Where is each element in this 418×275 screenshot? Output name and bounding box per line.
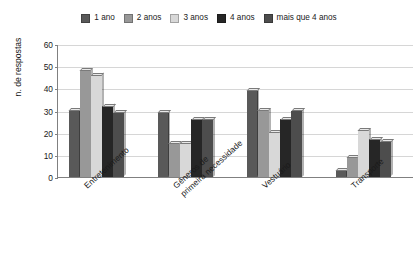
bar[interactable] [358, 130, 369, 177]
bar-slot [247, 45, 258, 177]
legend-item-label: 2 anos [137, 14, 162, 22]
legend-item[interactable]: mais que 4 anos [264, 14, 337, 23]
bar-slot [202, 45, 213, 177]
legend-item[interactable]: 1 ano [81, 14, 115, 23]
bar[interactable] [347, 157, 358, 177]
bar-slot [69, 45, 80, 177]
bar[interactable] [336, 170, 347, 177]
legend-item-label: 4 anos [230, 14, 255, 22]
legend-swatch-icon [81, 14, 90, 23]
bar[interactable] [91, 75, 102, 177]
bar-slot [347, 45, 358, 177]
y-axis-tick-label: 30 [27, 107, 53, 115]
y-axis-tick-labels: 0102030405060 [22, 45, 53, 178]
legend-item-label: 1 ano [94, 14, 115, 22]
bar-slot [258, 45, 269, 177]
y-axis-tick [55, 134, 58, 135]
y-axis-tick [55, 178, 58, 179]
bar-top-face [203, 117, 217, 120]
bar[interactable] [247, 91, 258, 177]
chart-legend: 1 ano2 anos3 anos4 anosmais que 4 anos [0, 14, 418, 23]
bar[interactable] [113, 113, 124, 177]
y-axis-tick [55, 112, 58, 113]
bar[interactable] [69, 111, 80, 178]
y-axis-tick [55, 45, 58, 46]
bar-slot [369, 45, 380, 177]
bar[interactable] [280, 119, 291, 177]
y-axis-tick-label: 50 [27, 63, 53, 71]
bar-slot [169, 45, 180, 177]
bar-slot [113, 45, 124, 177]
y-axis-tick-label: 0 [27, 174, 53, 182]
bar[interactable] [380, 142, 391, 177]
y-axis-tick-label: 60 [27, 41, 53, 49]
bar[interactable] [169, 144, 180, 177]
legend-item[interactable]: 2 anos [124, 14, 162, 23]
bar-slot [80, 45, 91, 177]
legend-swatch-icon [170, 14, 179, 23]
bar[interactable] [191, 119, 202, 177]
bar-slot [102, 45, 113, 177]
y-axis-tick-label: 20 [27, 129, 53, 137]
plot-area [57, 45, 413, 178]
bar-group [247, 45, 303, 177]
bar-group [158, 45, 214, 177]
bar-side-face [124, 110, 126, 176]
bar-slot [358, 45, 369, 177]
bar-slot [191, 45, 202, 177]
bar[interactable] [369, 139, 380, 177]
bar-slot [269, 45, 280, 177]
bar[interactable] [291, 111, 302, 178]
y-axis-tick [55, 156, 58, 157]
legend-swatch-icon [264, 14, 273, 23]
y-axis-tick-label: 10 [27, 152, 53, 160]
bar-chart: 1 ano2 anos3 anos4 anosmais que 4 anos n… [0, 0, 418, 275]
y-axis-tick [55, 89, 58, 90]
bar-slot [380, 45, 391, 177]
y-axis-tick-label: 40 [27, 85, 53, 93]
legend-item-label: 3 anos [183, 14, 208, 22]
legend-item-label: mais que 4 anos [277, 14, 337, 22]
bar[interactable] [102, 106, 113, 177]
legend-swatch-icon [217, 14, 226, 23]
bar[interactable] [80, 71, 91, 177]
legend-item[interactable]: 3 anos [170, 14, 208, 23]
bar-group [69, 45, 125, 177]
bar[interactable] [258, 111, 269, 178]
bar-slot [91, 45, 102, 177]
bar-top-face [292, 108, 306, 111]
y-axis-tick [55, 67, 58, 68]
bar-slot [180, 45, 191, 177]
bar-group [336, 45, 392, 177]
bar-slot [291, 45, 302, 177]
bar-slot [158, 45, 169, 177]
bar-top-face [381, 139, 395, 142]
legend-swatch-icon [124, 14, 133, 23]
bar-side-face [213, 117, 215, 177]
bar-side-face [302, 108, 304, 177]
bar-slot [280, 45, 291, 177]
bar-slot [336, 45, 347, 177]
bar[interactable] [269, 133, 280, 177]
legend-item[interactable]: 4 anos [217, 14, 255, 23]
bar-side-face [391, 139, 393, 177]
bar[interactable] [158, 113, 169, 177]
bar[interactable] [202, 119, 213, 177]
bar[interactable] [180, 144, 191, 177]
